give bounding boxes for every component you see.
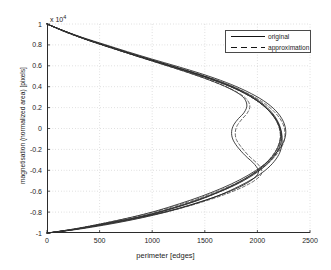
y-axis-exponent-power: 4 [63, 14, 66, 20]
x-tick-label: 2000 [242, 237, 272, 244]
legend-item-approximation: approximation [226, 42, 312, 53]
y-axis-exponent: x 104 [50, 13, 66, 24]
x-tick-label: 1500 [190, 237, 220, 244]
y-axis-exponent-base: x 10 [50, 16, 63, 23]
figure: x 104 10.80.60.40.20-0.2-0.4-0.6-0.8-1 0… [0, 0, 331, 270]
x-tick-label: 2500 [295, 237, 325, 244]
legend-label: original [268, 31, 289, 42]
x-tick-label: 0 [32, 237, 62, 244]
x-axis-title: perimeter [edges] [0, 251, 331, 260]
x-tick-label: 1000 [137, 237, 167, 244]
x-tick-label: 500 [85, 237, 115, 244]
legend: originalapproximation [225, 30, 311, 53]
y-tick-label: 1 [16, 21, 42, 28]
legend-item-original: original [226, 31, 312, 42]
plot-area [47, 24, 310, 233]
y-axis-title: magnetisation (normalized area) [pixels] [19, 31, 26, 221]
legend-label: approximation [268, 42, 309, 53]
legend-line-sample [231, 36, 265, 37]
legend-line-sample [231, 47, 265, 48]
y-tick-label: -1 [16, 230, 42, 237]
